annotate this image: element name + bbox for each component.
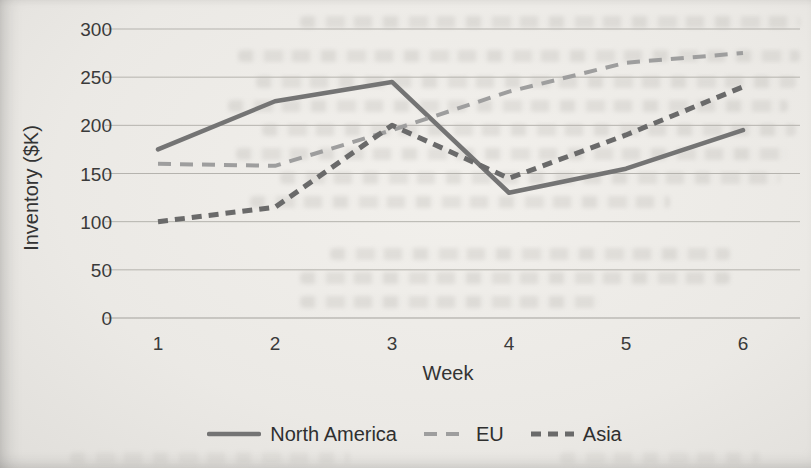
scanned-page: 050100150200250300123456 Inventory ($K) … bbox=[0, 0, 811, 468]
y-tick-label: 0 bbox=[101, 308, 112, 329]
series-line-north-america bbox=[158, 82, 743, 193]
y-tick-label: 50 bbox=[91, 260, 112, 281]
legend-line-swatch-dashed-dark bbox=[530, 429, 574, 439]
legend-line-swatch-solid bbox=[207, 429, 261, 439]
x-axis-title: Week bbox=[423, 362, 474, 385]
legend-item-north-america: North America bbox=[207, 423, 397, 446]
x-tick-label: 6 bbox=[738, 333, 749, 354]
x-tick-label: 3 bbox=[387, 333, 398, 354]
y-tick-label: 250 bbox=[80, 67, 112, 88]
chart-legend: North America EU Asia bbox=[0, 419, 811, 449]
x-tick-label: 5 bbox=[621, 333, 632, 354]
y-tick-label: 300 bbox=[80, 19, 112, 40]
legend-line-swatch-dashed-light bbox=[423, 429, 467, 439]
y-tick-label: 200 bbox=[80, 115, 112, 136]
x-tick-label: 1 bbox=[153, 333, 164, 354]
series-line-eu bbox=[158, 53, 743, 166]
x-tick-label: 4 bbox=[504, 333, 515, 354]
legend-item-eu: EU bbox=[423, 423, 504, 446]
x-tick-label: 2 bbox=[270, 333, 281, 354]
y-axis-title: Inventory ($K) bbox=[20, 125, 43, 251]
series-line-asia bbox=[158, 87, 743, 222]
legend-label-eu: EU bbox=[476, 423, 504, 446]
chart-svg: 050100150200250300123456 bbox=[0, 0, 811, 468]
legend-label-north-america: North America bbox=[270, 423, 397, 446]
legend-item-asia: Asia bbox=[530, 423, 622, 446]
y-tick-label: 150 bbox=[80, 164, 112, 185]
legend-label-asia: Asia bbox=[583, 423, 622, 446]
y-tick-label: 100 bbox=[80, 212, 112, 233]
